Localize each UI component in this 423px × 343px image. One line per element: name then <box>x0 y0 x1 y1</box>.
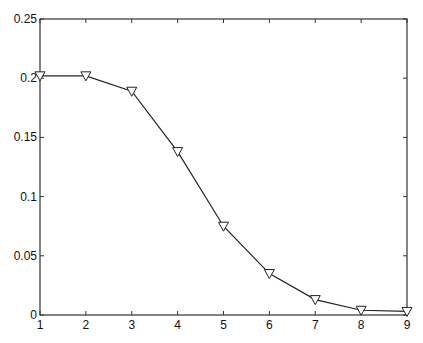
axes <box>40 19 407 315</box>
y-tick-label: 0.05 <box>14 249 38 263</box>
y-tick-label: 0.25 <box>14 12 38 26</box>
x-tick-label: 1 <box>37 318 44 332</box>
x-tick-label: 9 <box>404 318 411 332</box>
y-tick-label: 0.2 <box>20 71 37 85</box>
data-series <box>35 72 412 317</box>
plot-frame <box>40 19 407 315</box>
x-tick-label: 4 <box>174 318 181 332</box>
triangle-marker-icon <box>264 270 274 279</box>
y-tick-label: 0.15 <box>14 130 38 144</box>
x-tick-label: 7 <box>312 318 319 332</box>
x-tick-label: 5 <box>220 318 227 332</box>
x-tick-label: 3 <box>128 318 135 332</box>
x-axis-ticks: 123456789 <box>37 19 411 332</box>
x-tick-label: 2 <box>83 318 90 332</box>
triangle-marker-icon <box>173 148 183 157</box>
line-chart: 00.050.10.150.20.25 123456789 <box>0 0 423 343</box>
y-tick-label: 0.1 <box>20 190 37 204</box>
series-line <box>40 76 407 312</box>
x-tick-label: 6 <box>266 318 273 332</box>
x-tick-label: 8 <box>358 318 365 332</box>
y-axis-ticks: 00.050.10.150.20.25 <box>14 12 407 322</box>
